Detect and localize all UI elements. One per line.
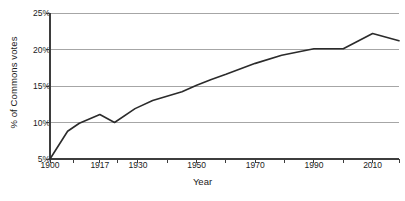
x-tick-label-1950: 1950 (187, 160, 206, 170)
series-line-0 (50, 33, 399, 159)
x-axis-title: Year (0, 176, 405, 187)
gridlines (50, 13, 399, 159)
x-tick-label-1970: 1970 (246, 160, 265, 170)
axis-tick-marks (46, 13, 399, 163)
x-tick-label-1930: 1930 (129, 160, 148, 170)
x-axis-tick-labels: 1900191719301950197019902010 (0, 160, 405, 176)
x-tick-label-1917: 1917 (90, 160, 109, 170)
data-series (50, 33, 399, 159)
x-axis-title-text: Year (193, 176, 212, 187)
x-tick-label-2010: 2010 (363, 160, 382, 170)
line-chart: % of Commons votes 5%10%15%20%25% 190019… (0, 0, 405, 201)
x-tick-label-1900: 1900 (41, 160, 60, 170)
x-tick-label-1990: 1990 (304, 160, 323, 170)
